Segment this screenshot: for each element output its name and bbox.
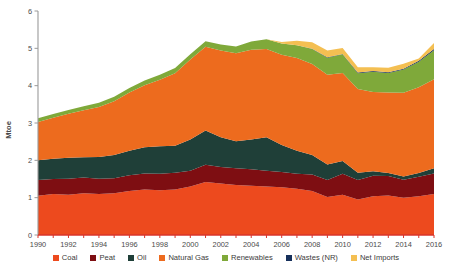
x-tick-label: 1994 (91, 240, 107, 249)
x-axis: 1990199219941996199820002002200420062008… (30, 235, 442, 249)
x-tick-label: 1990 (30, 240, 46, 249)
legend-swatch-icon (222, 255, 228, 261)
x-tick-label: 2002 (213, 240, 229, 249)
legend-label: Net Imports (360, 254, 399, 262)
legend-item-natural-gas[interactable]: Natural Gas (159, 254, 209, 262)
legend-swatch-icon (286, 255, 292, 261)
x-tick-label: 1996 (121, 240, 137, 249)
y-tick-label: 6 (28, 7, 32, 16)
y-tick-label: 4 (28, 81, 32, 90)
legend-label: Wastes (NR) (295, 254, 338, 262)
y-tick-label: 5 (28, 44, 32, 53)
y-tick-label: 3 (28, 119, 32, 128)
x-tick-label: 2000 (182, 240, 198, 249)
y-tick-label: 0 (28, 231, 32, 240)
chart-legend: CoalPeatOilNatural GasRenewablesWastes (… (0, 249, 452, 267)
y-tick-label: 2 (28, 156, 32, 165)
legend-item-renewables[interactable]: Renewables (222, 254, 273, 262)
series-group (38, 39, 434, 235)
x-tick-label: 2006 (273, 240, 289, 249)
legend-label: Coal (62, 254, 78, 262)
legend-swatch-icon (159, 255, 165, 261)
legend-swatch-icon (351, 255, 357, 261)
y-axis: 0123456 (28, 7, 38, 240)
legend-item-wastes-nr[interactable]: Wastes (NR) (286, 254, 338, 262)
legend-item-net-imports[interactable]: Net Imports (351, 254, 399, 262)
legend-item-peat[interactable]: Peat (90, 254, 115, 262)
legend-swatch-icon (128, 255, 134, 261)
legend-item-coal[interactable]: Coal (53, 254, 78, 262)
legend-swatch-icon (90, 255, 96, 261)
x-tick-label: 1992 (60, 240, 76, 249)
x-tick-label: 1998 (152, 240, 168, 249)
legend-label: Peat (99, 254, 115, 262)
x-tick-label: 2016 (426, 240, 442, 249)
x-tick-label: 2012 (365, 240, 381, 249)
chart-plot-area: 0123456Mtoe19901992199419961998200020022… (0, 0, 452, 272)
x-tick-label: 2008 (304, 240, 320, 249)
legend-swatch-icon (53, 255, 59, 261)
x-tick-label: 2004 (243, 240, 259, 249)
legend-label: Natural Gas (168, 254, 209, 262)
legend-item-oil[interactable]: Oil (128, 254, 146, 262)
stacked-area-chart: 0123456Mtoe19901992199419961998200020022… (0, 0, 452, 272)
x-tick-label: 2010 (334, 240, 350, 249)
legend-label: Renewables (231, 254, 273, 262)
y-tick-label: 1 (28, 193, 32, 202)
x-tick-label: 2014 (395, 240, 411, 249)
y-axis-title: Mtoe (4, 121, 13, 139)
legend-label: Oil (137, 254, 146, 262)
